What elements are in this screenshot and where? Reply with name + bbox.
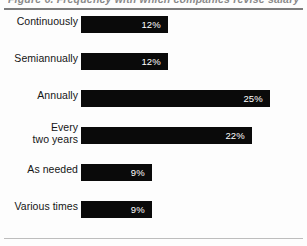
bar: 12% [81, 53, 168, 70]
bar-value-label: 9% [131, 201, 145, 218]
category-label: Various times [0, 201, 78, 213]
bar-value-label: 12% [141, 53, 161, 70]
category-label: Annually [0, 90, 78, 102]
plot-area: Continuously 12% Semiannually 12% Annual… [0, 16, 307, 236]
bar-row: Annually 25% [0, 90, 307, 116]
category-label: Semiannually [0, 53, 78, 65]
bar-value-label: 12% [141, 16, 161, 33]
bar-value-label: 22% [225, 127, 245, 144]
category-label: Everytwo years [0, 122, 78, 145]
bar: 12% [81, 16, 168, 33]
bar: 25% [81, 90, 270, 107]
bar-row: As needed 9% [0, 164, 307, 190]
top-rule [4, 8, 303, 10]
bar-row: Continuously 12% [0, 16, 307, 42]
bar-value-label: 25% [243, 90, 263, 107]
category-label: Continuously [0, 16, 78, 28]
bottom-rule [4, 238, 303, 239]
figure-title: Figure 6. Frequency with which companies… [8, 0, 300, 5]
bar-row: Various times 9% [0, 201, 307, 227]
bar: 9% [81, 164, 152, 181]
category-label: As needed [0, 164, 78, 176]
bar-row: Everytwo years 22% [0, 127, 307, 153]
bar-chart-figure: Figure 6. Frequency with which companies… [0, 0, 307, 246]
bar-row: Semiannually 12% [0, 53, 307, 79]
bar: 9% [81, 201, 152, 218]
bar: 22% [81, 127, 252, 144]
bar-value-label: 9% [131, 164, 145, 181]
